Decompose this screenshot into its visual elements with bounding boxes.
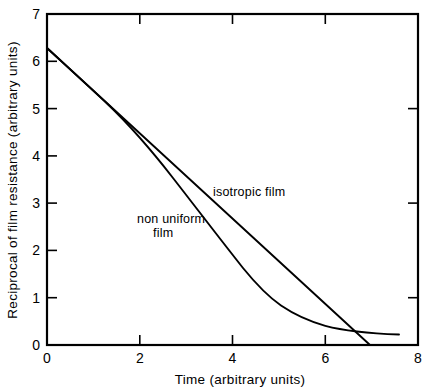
chart-figure: 0 1 2 3 4 5 6 7 0 2 4 6 8 Time (arbitrar… (0, 0, 429, 391)
y-tick-label-1: 1 (32, 290, 40, 306)
y-axis-title: Reciprocal of film resistance (arbitrary… (5, 41, 20, 318)
x-tick-label-2: 2 (136, 350, 144, 366)
y-tick-label-7: 7 (32, 6, 40, 22)
y-tick-label-5: 5 (32, 101, 40, 117)
y-tick-label-0: 0 (32, 337, 40, 353)
x-tick-label-4: 4 (229, 350, 237, 366)
y-tick-label-4: 4 (32, 148, 40, 164)
x-tick-label-8: 8 (414, 350, 422, 366)
x-tick-label-6: 6 (321, 350, 329, 366)
x-axis-title: Time (arbitrary units) (175, 372, 306, 387)
line-chart: 0 1 2 3 4 5 6 7 0 2 4 6 8 Time (arbitrar… (0, 0, 429, 391)
annotation-non-uniform-film-line2: film (153, 226, 173, 240)
annotation-isotropic-film: isotropic film (213, 185, 285, 199)
annotation-non-uniform-film-line1: non uniform (137, 212, 205, 226)
x-tick-label-0: 0 (43, 350, 51, 366)
plot-frame (47, 14, 418, 345)
y-tick-label-2: 2 (32, 242, 40, 258)
y-tick-label-6: 6 (32, 53, 40, 69)
x-axis-ticks (140, 14, 418, 345)
y-tick-label-3: 3 (32, 195, 40, 211)
y-axis-ticks (47, 14, 57, 345)
